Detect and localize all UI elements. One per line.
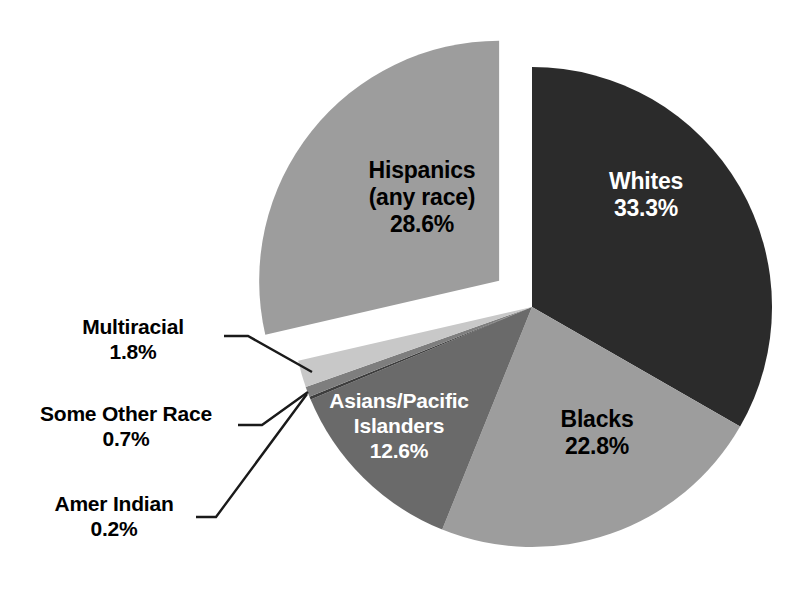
leader-line-multiracial (224, 336, 312, 372)
pie-label-amer-indian: Amer Indian 0.2% (28, 492, 200, 542)
pie-label-multiracial: Multiracial 1.8% (38, 315, 228, 365)
pie-chart: Whites 33.3% Hispanics (any race) 28.6% … (0, 0, 810, 590)
pie-label-blacks: Blacks 22.8% (517, 406, 677, 460)
pie-label-whites: Whites 33.3% (566, 168, 726, 222)
pie-label-asians-pacific-islanders: Asians/Pacific Islanders 12.6% (298, 389, 500, 463)
pie-label-hispanics: Hispanics (any race) 28.6% (332, 157, 512, 238)
pie-label-some-other-race: Some Other Race 0.7% (12, 402, 240, 452)
